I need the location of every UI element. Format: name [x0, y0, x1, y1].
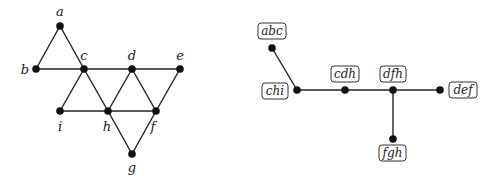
vertex-a — [56, 22, 64, 30]
vertex-i — [56, 107, 64, 115]
tree-node-chi — [293, 86, 301, 94]
vertex-label-a: a — [56, 4, 64, 19]
vertex-label-b: b — [21, 62, 29, 77]
vertex-h — [104, 107, 112, 115]
tree-label-def: def — [453, 83, 475, 97]
tree-node-cdh — [341, 86, 349, 94]
tree-label-fgh: fgh — [382, 146, 403, 160]
tree-node-def — [436, 86, 444, 94]
tree-label-abc: abc — [261, 24, 283, 38]
edge-h-g — [108, 111, 132, 154]
vertex-g — [128, 150, 136, 158]
vertex-label-g: g — [128, 160, 136, 175]
tree-node-abc — [268, 44, 276, 52]
edge-a-b — [36, 26, 60, 69]
tree-label-chi: chi — [266, 84, 284, 98]
vertex-d — [128, 65, 136, 73]
edge-f-e — [156, 69, 180, 111]
tree-label-cdh: cdh — [334, 67, 356, 81]
vertex-label-e: e — [176, 48, 184, 63]
tree-node-dfh — [389, 86, 397, 94]
tree-label-dfh: dfh — [383, 67, 403, 81]
triangle-graph: abcdeihfg — [21, 4, 184, 175]
vertex-e — [176, 65, 184, 73]
vertex-label-c: c — [80, 48, 88, 63]
vertex-label-i: i — [58, 119, 62, 134]
vertex-label-d: d — [128, 48, 136, 63]
vertex-label-f: f — [150, 119, 158, 134]
diagram-canvas: abcdeihfg abcchicdhdfhdeffgh — [0, 0, 498, 180]
vertex-c — [80, 65, 88, 73]
vertex-label-h: h — [103, 119, 111, 134]
edge-h-d — [108, 69, 132, 111]
edge-d-f — [132, 69, 156, 111]
clique-tree: abcchicdhdfhdeffgh — [258, 23, 477, 161]
tree-node-fgh — [389, 135, 397, 143]
vertex-f — [152, 107, 160, 115]
vertex-b — [32, 65, 40, 73]
edge-c-i — [60, 69, 84, 111]
edge-c-h — [84, 69, 108, 111]
